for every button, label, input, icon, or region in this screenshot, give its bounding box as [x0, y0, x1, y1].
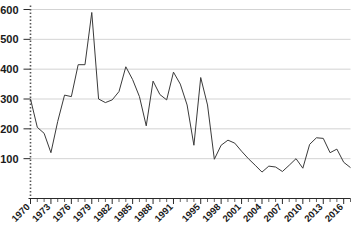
x-tick-label-2001: 2001 [220, 201, 243, 224]
x-tick-label-2010: 2010 [282, 201, 305, 224]
axis-lines [29, 6, 351, 199]
x-tick-label-1979: 1979 [70, 201, 93, 224]
x-tick-label-2016: 2016 [322, 201, 345, 224]
x-tick-label-1988: 1988 [132, 201, 155, 224]
x-tick-label-1970: 1970 [9, 201, 32, 224]
y-tick-label-500: 500 [0, 33, 18, 45]
y-tick-label-100: 100 [0, 153, 18, 165]
y-tick-label-600: 600 [0, 4, 18, 16]
x-tick-label-2007: 2007 [261, 201, 284, 224]
y-axis-tick-labels: 100200300400500600 [0, 4, 18, 165]
x-tick-label-1991: 1991 [152, 201, 175, 224]
x-axis-tick-marks [31, 199, 351, 205]
x-tick-label-1982: 1982 [91, 201, 114, 224]
y-tick-label-200: 200 [0, 123, 18, 135]
x-tick-label-1985: 1985 [111, 201, 134, 224]
gridlines [31, 10, 351, 159]
x-tick-label-2004: 2004 [241, 201, 264, 224]
x-tick-label-1973: 1973 [30, 201, 53, 224]
x-tick-label-1995: 1995 [179, 201, 202, 224]
x-tick-label-1976: 1976 [50, 201, 73, 224]
x-axis-tick-labels: 1970197319761979198219851988199119951998… [9, 201, 345, 224]
chart-plot-area: 100200300400500600 197019731976197919821… [0, 0, 358, 235]
y-axis-tick-marks [24, 10, 31, 159]
y-tick-label-400: 400 [0, 63, 18, 75]
y-tick-label-300: 300 [0, 93, 18, 105]
data-series-line [31, 12, 351, 172]
x-tick-label-1998: 1998 [200, 201, 223, 224]
line-chart-figure: 100200300400500600 197019731976197919821… [0, 0, 358, 235]
x-tick-label-2013: 2013 [302, 201, 325, 224]
